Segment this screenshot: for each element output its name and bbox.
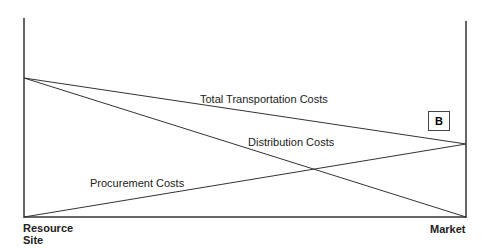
site-label: Site [23,234,43,246]
market-label: Market [430,223,465,235]
marker-b-box: B [428,111,450,131]
total-transportation-label: Total Transportation Costs [200,93,328,105]
total-transportation-line [24,78,466,144]
cost-diagram [0,0,490,248]
resource-label: Resource [23,222,73,234]
distribution-label: Distribution Costs [248,136,334,148]
procurement-label: Procurement Costs [90,177,184,189]
